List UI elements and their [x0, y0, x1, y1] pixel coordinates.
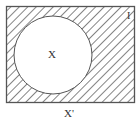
set-x-label: X	[48, 49, 56, 60]
complement-caption: X'	[64, 108, 74, 119]
universe-label: I	[127, 11, 130, 21]
